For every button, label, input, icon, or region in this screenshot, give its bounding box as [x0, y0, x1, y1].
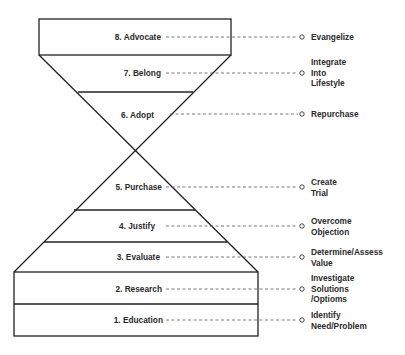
action-label-adopt: Repurchase: [311, 109, 359, 120]
action-line: Need/Problem: [311, 320, 367, 331]
action-line: Objection: [311, 226, 352, 237]
action-line: Lifestyle: [311, 78, 346, 89]
stage-label-research: 2. Research: [115, 284, 162, 294]
action-line: Overcome: [311, 216, 352, 227]
action-label-education: Identify Need/Problem: [311, 310, 367, 331]
stage-label-justify: 4. Justify: [119, 221, 155, 231]
endpoint-circle-icon: [300, 287, 304, 291]
edge-top-right: [14, 55, 231, 272]
action-line: Trial: [311, 187, 337, 198]
action-line: Identify: [311, 310, 367, 321]
action-line: Evangelize: [311, 32, 354, 43]
stage-label-advocate: 8. Advocate: [115, 32, 161, 42]
action-line: Solutions: [311, 284, 354, 295]
endpoint-circle-icon: [300, 112, 304, 116]
edge-top-left: [39, 55, 258, 272]
action-line: Into: [311, 68, 346, 79]
endpoint-circle-icon: [300, 224, 304, 228]
stage-label-adopt: 6. Adopt: [121, 110, 154, 120]
action-label-belong: Integrate Into Lifestyle: [311, 57, 346, 89]
endpoint-circle-icon: [300, 71, 304, 75]
endpoint-circle-icon: [300, 35, 304, 39]
stage-label-education: 1. Education: [114, 315, 163, 325]
action-line: Determine/Assess: [311, 247, 383, 258]
stage-label-belong: 7. Belong: [124, 68, 161, 78]
endpoint-circle-icon: [300, 255, 304, 259]
action-line: Integrate: [311, 57, 346, 68]
action-line: Value: [311, 257, 383, 268]
endpoint-circle-icon: [300, 185, 304, 189]
action-label-advocate: Evangelize: [311, 32, 354, 43]
endpoint-circles: [300, 35, 304, 322]
leader-lines: [166, 37, 298, 320]
stage-label-evaluate: 3. Evaluate: [117, 252, 160, 262]
action-line: Repurchase: [311, 109, 359, 120]
action-label-purchase: Create Trial: [311, 177, 337, 198]
stage-label-purchase: 5. Purchase: [115, 182, 162, 192]
action-label-evaluate: Determine/Assess Value: [311, 247, 383, 268]
action-label-justify: Overcome Objection: [311, 216, 352, 237]
action-line: Create: [311, 177, 337, 188]
action-line: /Optioms: [311, 294, 354, 305]
action-label-research: Investigate Solutions /Optioms: [311, 273, 354, 305]
action-line: Investigate: [311, 273, 354, 284]
endpoint-circle-icon: [300, 318, 304, 322]
